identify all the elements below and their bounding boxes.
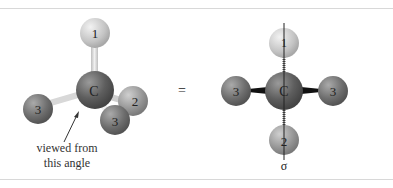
atom-1-label: 1 [92, 26, 99, 41]
wedge-bond-left [248, 87, 268, 94]
proj-carbon-label: C [279, 84, 288, 99]
atom-2-label: 2 [132, 94, 139, 109]
newman-style-projection: 1 2 3 3 C σ [221, 23, 348, 173]
ball-and-stick-model: 1 2 3 C 3 [23, 18, 148, 142]
view-arrow-shaft [64, 115, 77, 142]
caption-line-1: viewed from [22, 141, 112, 156]
sigma-plane-label: σ [281, 159, 288, 173]
atom-3-left-label: 3 [35, 102, 42, 117]
annotation-caption: viewed from this angle [22, 141, 112, 171]
equals-sign: = [178, 83, 186, 98]
caption-line-2: this angle [22, 156, 112, 171]
proj-atom-2-label: 2 [281, 134, 288, 149]
proj-atom-3-right-label: 3 [330, 84, 337, 99]
view-arrow-icon [74, 111, 79, 118]
proj-atom-3-left-label: 3 [233, 84, 240, 99]
atom-3-front-label: 3 [112, 114, 119, 129]
proj-atom-1-label: 1 [281, 36, 287, 50]
wedge-bond-right [301, 87, 321, 94]
carbon-label: C [89, 84, 98, 99]
